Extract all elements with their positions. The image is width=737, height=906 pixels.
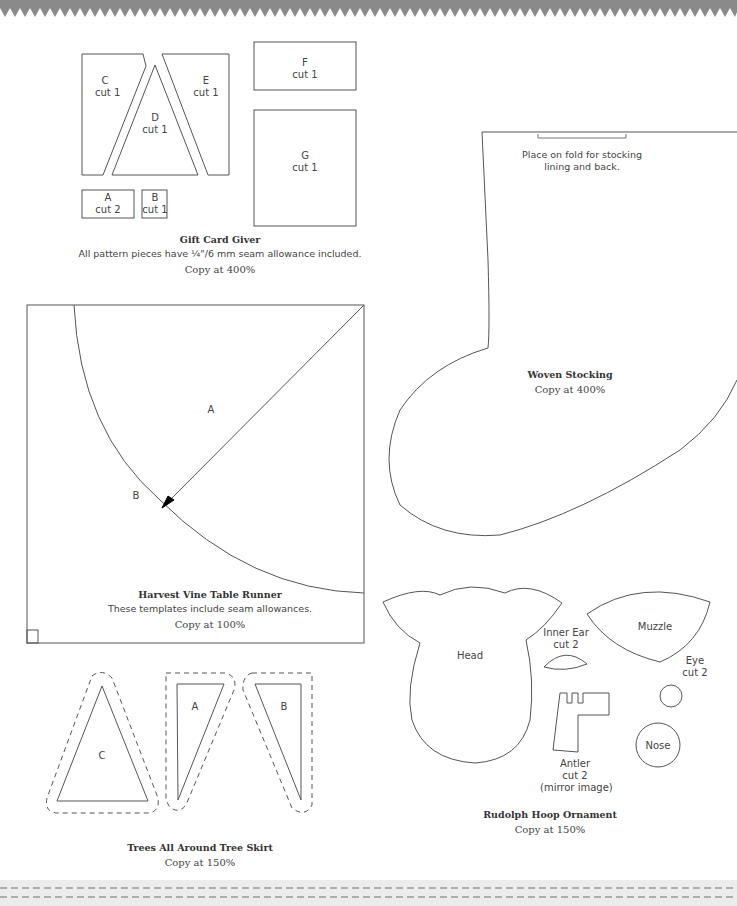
table-runner-copy: Copy at 100%	[135, 619, 285, 630]
tree-c-label: C	[96, 750, 108, 762]
piece-e-outline	[162, 54, 229, 175]
tree-a-seam	[166, 673, 235, 810]
rudolph-title: Rudolph Hoop Ornament	[470, 809, 630, 820]
tree-c-outline	[57, 686, 148, 801]
piece-g-label: Gcut 1	[285, 150, 325, 174]
piece-f-label: Fcut 1	[285, 57, 325, 81]
gift-card-giver-title: Gift Card Giver	[70, 234, 370, 245]
stitched-bottom-border	[0, 880, 737, 906]
woven-stocking-outline	[389, 132, 737, 536]
runner-corner-square	[27, 630, 38, 643]
tree-skirt-title: Trees All Around Tree Skirt	[115, 842, 285, 853]
piece-d-label: Dcut 1	[140, 112, 170, 136]
piece-b-label: Bcut 1	[142, 192, 168, 216]
piece-a-label: Acut 2	[88, 192, 128, 216]
tree-c-seam	[46, 672, 158, 813]
woven-stocking-copy: Copy at 400%	[500, 384, 640, 395]
nose-label: Nose	[640, 740, 676, 752]
inner-ear-label: Inner Earcut 2	[540, 627, 592, 651]
head-label: Head	[450, 650, 490, 662]
gift-card-giver-copy: Copy at 400%	[120, 264, 320, 275]
stocking-fold-note: Place on fold for stockinglining and bac…	[500, 149, 664, 173]
woven-stocking-title: Woven Stocking	[500, 369, 640, 380]
tree-b-label: B	[278, 701, 290, 713]
tree-skirt-pieces	[46, 672, 312, 813]
piece-c-outline	[82, 54, 146, 175]
eye-outline	[660, 685, 682, 707]
eye-label: Eyecut 2	[680, 655, 710, 679]
tree-b-seam	[243, 673, 312, 812]
runner-label-a: A	[205, 404, 217, 416]
head-outline	[383, 587, 562, 763]
table-runner-note: These templates include seam allowances.	[75, 603, 345, 614]
runner-label-b: B	[130, 490, 142, 502]
runner-arrow-line	[168, 305, 364, 502]
inner-ear-outline	[544, 655, 587, 669]
pattern-line-art	[0, 0, 737, 880]
gift-card-giver-note: All pattern pieces have ¼"/6 mm seam all…	[50, 248, 390, 259]
rudolph-copy: Copy at 150%	[500, 824, 600, 835]
piece-c-label: Ccut 1	[95, 75, 115, 99]
table-runner-title: Harvest Vine Table Runner	[95, 589, 325, 600]
piece-e-label: Ecut 1	[192, 75, 220, 99]
antler-label: Antlercut 2(mirror image)	[540, 758, 610, 794]
antler-outline	[553, 693, 609, 752]
tree-a-label: A	[189, 701, 201, 713]
muzzle-label: Muzzle	[630, 621, 680, 633]
tree-skirt-copy: Copy at 150%	[150, 857, 250, 868]
